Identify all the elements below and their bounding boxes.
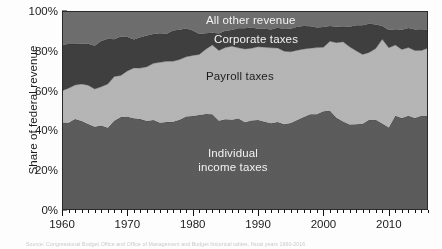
x-tick-minor xyxy=(219,210,220,213)
x-tick-minor xyxy=(121,210,122,213)
x-tick-minor xyxy=(238,210,239,213)
y-tick-label-0: 0% xyxy=(14,204,58,216)
x-tick-minor xyxy=(199,210,200,213)
x-tick-minor xyxy=(186,210,187,213)
x-tick-minor xyxy=(428,210,429,213)
series-label-all-other-revenue: All other revenue xyxy=(206,14,296,26)
y-tick-label-100: 100% xyxy=(14,5,58,17)
series-label-payroll-taxes: Payroll taxes xyxy=(206,70,274,82)
x-tick-major xyxy=(389,210,390,216)
chart-figure: Share of federal revenue 0%20%40%60%80%1… xyxy=(0,0,442,249)
x-tick-label-2000: 2000 xyxy=(311,218,337,230)
figure-caption: Source: Congressional Budget Office and … xyxy=(26,241,426,247)
x-tick-minor xyxy=(180,210,181,213)
series-label-individual-income-taxes-line2: income taxes xyxy=(174,161,292,173)
x-tick-label-1960: 1960 xyxy=(49,218,75,230)
x-tick-minor xyxy=(88,210,89,213)
y-tick-label-20: 20% xyxy=(14,164,58,176)
x-tick-minor xyxy=(252,210,253,213)
x-tick-minor xyxy=(154,210,155,213)
x-tick-label-1970: 1970 xyxy=(115,218,141,230)
x-tick-minor xyxy=(134,210,135,213)
x-tick-minor xyxy=(382,210,383,213)
x-tick-minor xyxy=(147,210,148,213)
x-tick-minor xyxy=(225,210,226,213)
x-tick-minor xyxy=(278,210,279,213)
x-tick-label-2010: 2010 xyxy=(376,218,402,230)
x-tick-minor xyxy=(297,210,298,213)
x-tick-minor xyxy=(108,210,109,213)
x-tick-minor xyxy=(82,210,83,213)
x-tick-minor xyxy=(160,210,161,213)
x-tick-minor xyxy=(69,210,70,213)
x-tick-minor xyxy=(395,210,396,213)
x-tick-minor xyxy=(408,210,409,213)
x-tick-minor xyxy=(317,210,318,213)
x-tick-minor xyxy=(304,210,305,213)
x-tick-minor xyxy=(402,210,403,213)
x-tick-minor xyxy=(173,210,174,213)
x-tick-minor xyxy=(356,210,357,213)
x-tick-major xyxy=(127,210,128,216)
x-tick-minor xyxy=(363,210,364,213)
x-axis: 196019701980199020002010 xyxy=(62,210,428,234)
x-tick-minor xyxy=(114,210,115,213)
x-tick-minor xyxy=(369,210,370,213)
x-tick-minor xyxy=(376,210,377,213)
series-label-individual-income-taxes-line1: Individual xyxy=(174,147,292,159)
y-tick-label-60: 60% xyxy=(14,85,58,97)
x-tick-minor xyxy=(310,210,311,213)
x-tick-minor xyxy=(271,210,272,213)
x-tick-major xyxy=(193,210,194,216)
x-tick-minor xyxy=(284,210,285,213)
x-tick-minor xyxy=(232,210,233,213)
y-axis-ticks: 0%20%40%60%80%100% xyxy=(8,0,58,249)
x-tick-label-1990: 1990 xyxy=(245,218,271,230)
x-tick-minor xyxy=(337,210,338,213)
x-tick-minor xyxy=(140,210,141,213)
series-label-corporate-taxes: Corporate taxes xyxy=(214,33,298,45)
x-tick-minor xyxy=(245,210,246,213)
x-tick-minor xyxy=(350,210,351,213)
x-tick-minor xyxy=(95,210,96,213)
x-tick-minor xyxy=(206,210,207,213)
x-tick-minor xyxy=(167,210,168,213)
x-tick-major xyxy=(323,210,324,216)
x-tick-minor xyxy=(291,210,292,213)
x-tick-major xyxy=(62,210,63,216)
x-tick-minor xyxy=(415,210,416,213)
y-tick-label-80: 80% xyxy=(14,45,58,57)
x-tick-minor xyxy=(265,210,266,213)
x-tick-minor xyxy=(75,210,76,213)
x-tick-minor xyxy=(212,210,213,213)
x-tick-minor xyxy=(101,210,102,213)
x-tick-minor xyxy=(330,210,331,213)
y-tick-label-40: 40% xyxy=(14,124,58,136)
x-tick-label-1980: 1980 xyxy=(180,218,206,230)
x-tick-minor xyxy=(421,210,422,213)
x-tick-major xyxy=(258,210,259,216)
x-tick-minor xyxy=(343,210,344,213)
